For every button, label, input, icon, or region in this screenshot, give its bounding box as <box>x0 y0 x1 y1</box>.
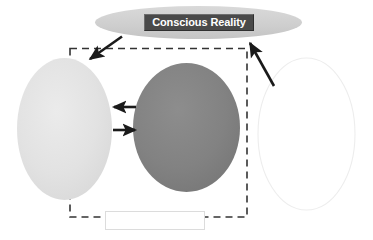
node-bottom-box <box>106 212 205 230</box>
node-left-ellipse <box>17 58 112 200</box>
arrow-right-to-title <box>250 43 274 86</box>
node-middle-ellipse <box>133 63 240 192</box>
conscious-reality-label-text: Conscious Reality <box>152 17 246 28</box>
diagram-canvas: Conscious Reality <box>0 0 373 240</box>
diagram-graphics <box>0 0 373 240</box>
conscious-reality-label-box: Conscious Reality <box>144 14 254 31</box>
